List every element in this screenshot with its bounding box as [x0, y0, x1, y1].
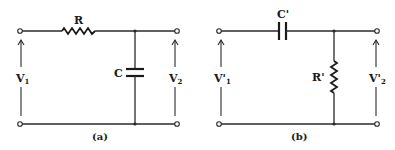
junction-node-top — [332, 29, 335, 32]
junction-node-bottom — [133, 122, 136, 125]
caption-a: (a) — [92, 131, 108, 142]
terminal-out-bottom — [175, 122, 180, 127]
terminal-in-top — [18, 29, 23, 34]
label-r: R — [74, 14, 84, 27]
terminal-in-bottom — [18, 122, 23, 127]
terminal-out-top — [175, 29, 180, 34]
caption-b: (b) — [291, 131, 307, 142]
label-v1-prime: V'1 — [213, 72, 231, 86]
label-c-prime: C' — [277, 8, 289, 21]
circuit-diagrams: R C V1 V2 (a) C' R' V'1 V'2 ( — [0, 0, 395, 150]
resistor-r-prime-icon — [331, 61, 337, 93]
resistor-r-icon — [62, 28, 95, 34]
label-r-prime: R' — [312, 71, 325, 84]
terminal-out-top — [375, 29, 380, 34]
junction-node-bottom — [332, 122, 335, 125]
label-v2-prime: V'2 — [368, 72, 386, 86]
terminal-in-top — [217, 29, 222, 34]
label-v1: V1 — [15, 72, 30, 86]
label-c: C — [114, 67, 123, 80]
label-v2: V2 — [168, 72, 183, 86]
junction-node-top — [133, 29, 136, 32]
terminal-in-bottom — [217, 122, 222, 127]
panel-a-rc-lowpass: R C V1 V2 (a) — [15, 14, 183, 142]
panel-b-cr-highpass: C' R' V'1 V'2 (b) — [213, 8, 386, 142]
terminal-out-bottom — [375, 122, 380, 127]
